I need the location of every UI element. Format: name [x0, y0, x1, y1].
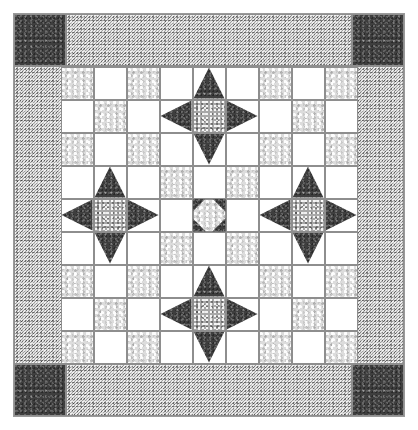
patch-light: [127, 133, 160, 166]
patch-light: [292, 100, 325, 133]
patch-star-center: [292, 199, 325, 232]
patch-light: [127, 67, 160, 100]
patch-white: [259, 298, 292, 331]
patch-light: [292, 298, 325, 331]
patch-star-point-top: [292, 166, 325, 199]
patch-white: [160, 199, 193, 232]
patch-white: [226, 199, 259, 232]
border-corner-bottom-right: [352, 364, 404, 416]
patch-star-center: [193, 100, 226, 133]
patch-white: [325, 100, 358, 133]
patch-star-corner-tr: [127, 166, 160, 199]
patch-star-center: [193, 298, 226, 331]
patch-white: [61, 298, 94, 331]
patch-white: [292, 265, 325, 298]
patch-white: [94, 265, 127, 298]
patch-star-point-top: [193, 67, 226, 100]
patch-star-corner-br: [226, 331, 259, 364]
patch-star-point-left: [61, 199, 94, 232]
patch-star-point-bottom: [292, 232, 325, 265]
patch-star-corner-tr: [226, 67, 259, 100]
patch-light: [325, 265, 358, 298]
patch-light: [94, 298, 127, 331]
border-corner-bottom-left: [14, 364, 66, 416]
patch-star-corner-tl: [61, 166, 94, 199]
patch-light: [127, 265, 160, 298]
quilt-outer-frame: [13, 13, 405, 417]
patch-white: [61, 100, 94, 133]
patch-light: [325, 133, 358, 166]
patch-light: [259, 133, 292, 166]
patch-star-corner-bl: [160, 331, 193, 364]
border-strip-right: [352, 66, 404, 364]
patch-light: [160, 232, 193, 265]
patch-star-point-bottom: [193, 331, 226, 364]
patch-light: [259, 265, 292, 298]
patch-light: [61, 265, 94, 298]
patch-star-corner-bl: [259, 232, 292, 265]
border-strip-bottom: [66, 364, 352, 416]
patch-white: [127, 298, 160, 331]
patch-light: [259, 67, 292, 100]
patch-white: [94, 67, 127, 100]
patch-star-point-left: [160, 298, 193, 331]
quilt-diagram: Quilt Block Layout Diagram Nine-block qu…: [0, 0, 418, 430]
patch-light: [61, 67, 94, 100]
patch-star-point-top: [193, 265, 226, 298]
patch-white: [325, 298, 358, 331]
patch-light: [325, 331, 358, 364]
patch-light: [226, 166, 259, 199]
patch-star-corner-br: [325, 232, 358, 265]
patch-star-corner-bl: [160, 133, 193, 166]
patch-white: [193, 232, 226, 265]
patch-star-point-right: [325, 199, 358, 232]
patch-star-center: [94, 199, 127, 232]
patch-white: [94, 331, 127, 364]
patch-light: [61, 331, 94, 364]
patch-white: [292, 331, 325, 364]
border-corner-top-left: [14, 14, 66, 66]
border-corner-top-right: [352, 14, 404, 66]
patch-white: [292, 133, 325, 166]
patch-white: [193, 166, 226, 199]
patch-light: [226, 232, 259, 265]
patch-star-point-bottom: [193, 133, 226, 166]
patch-star-corner-tl: [160, 265, 193, 298]
patch-star-point-right: [127, 199, 160, 232]
patch-star-corner-tr: [325, 166, 358, 199]
patch-star-point-left: [160, 100, 193, 133]
patch-light: [94, 100, 127, 133]
border-strip-top: [66, 14, 352, 66]
patch-star-corner-tl: [160, 67, 193, 100]
patch-star-point-right: [226, 100, 259, 133]
patch-star-corner-tr: [226, 265, 259, 298]
border-strip-left: [14, 66, 66, 364]
patch-light: [61, 133, 94, 166]
patch-star-corner-br: [226, 133, 259, 166]
patch-star-point-bottom: [94, 232, 127, 265]
patch-light: [259, 331, 292, 364]
patch-light: [325, 67, 358, 100]
patch-star-point-top: [94, 166, 127, 199]
patch-star-point-right: [226, 298, 259, 331]
patch-light: [127, 331, 160, 364]
patch-star-corner-bl: [61, 232, 94, 265]
patch-white: [94, 133, 127, 166]
patch-star-point-left: [259, 199, 292, 232]
patch-white: [127, 100, 160, 133]
patch-light: [160, 166, 193, 199]
patch-white: [292, 67, 325, 100]
patch-white: [259, 100, 292, 133]
patch-star-corner-tl: [259, 166, 292, 199]
patch-star-corner-br: [127, 232, 160, 265]
